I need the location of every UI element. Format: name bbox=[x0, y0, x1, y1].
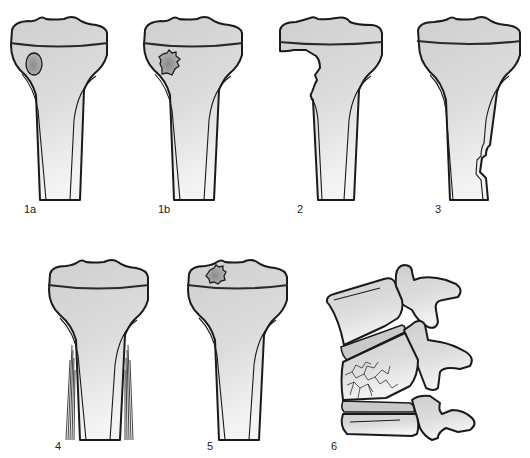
tibia-1b bbox=[143, 17, 243, 200]
panel-label-1b: 1b bbox=[158, 203, 170, 215]
tibia-3 bbox=[417, 17, 521, 200]
panel-label-1a: 1a bbox=[24, 203, 36, 215]
panel-label-6: 6 bbox=[331, 440, 337, 452]
tibia-2 bbox=[279, 17, 382, 200]
panel-label-3: 3 bbox=[435, 203, 441, 215]
lesion-oval bbox=[26, 53, 42, 75]
tibia-5 bbox=[187, 260, 288, 440]
panel-label-5: 5 bbox=[207, 440, 213, 452]
figure-canvas bbox=[0, 0, 530, 458]
vertebrae-6 bbox=[327, 265, 475, 440]
panel-label-4: 4 bbox=[55, 440, 61, 452]
tibia-1a bbox=[10, 17, 108, 200]
panel-label-2: 2 bbox=[297, 203, 303, 215]
tibia-4 bbox=[48, 260, 149, 440]
